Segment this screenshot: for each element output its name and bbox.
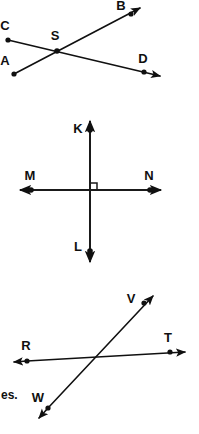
point-label-T: T [164,330,172,345]
right-angle-marker [90,183,97,190]
point-dot-T [167,349,172,354]
point-label-B: B [116,0,125,13]
point-dot-K [87,127,93,133]
point-dot-C [5,37,10,42]
point-dot-M [28,187,34,193]
point-label-N: N [144,168,153,183]
point-label-W: W [32,390,45,405]
line-R-to-T-horizontal [27,352,185,361]
point-dot-V [141,300,146,305]
figure-intersecting-rays-bottom: V R T W [14,291,185,418]
ray-C-to-D [8,40,160,76]
figure-intersecting-rays-top: C A S B D [0,0,160,77]
point-dot-W [45,405,50,410]
geometry-figure-canvas: C A S B D K M N L V R T W [0,0,199,434]
point-label-L: L [74,239,82,254]
figure-perpendicular-lines-middle: K M N L [20,121,161,262]
point-label-D: D [138,51,147,66]
point-dot-L [87,248,93,254]
ray-A-to-B [14,8,140,74]
line-W-to-V-diagonal [48,296,153,408]
point-label-R: R [21,338,31,353]
point-label-C: C [0,18,10,33]
point-label-K: K [73,121,83,136]
point-label-A: A [0,53,10,68]
point-dot-D [141,69,146,74]
point-label-M: M [25,168,36,183]
point-dot-R [24,358,29,363]
point-dot-S [54,48,60,54]
clipped-text-fragment: es. [1,388,18,402]
point-dot-A [11,71,16,76]
point-dot-B [128,11,133,16]
point-label-S: S [51,28,60,43]
point-dot-N [147,187,153,193]
point-label-V: V [127,291,136,306]
